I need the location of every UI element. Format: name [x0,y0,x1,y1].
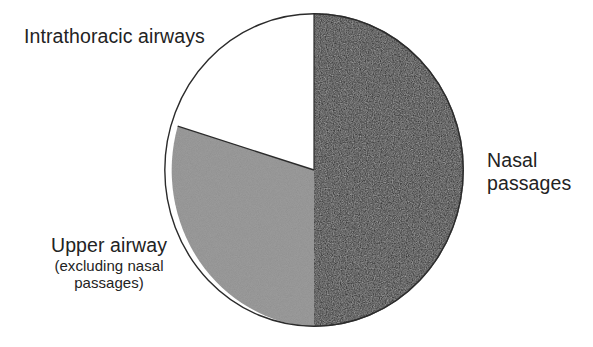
slice-label-nasal-line1: Nasal [487,149,571,172]
slice-label-upper-sub-line2: passages) [33,274,185,291]
slice-label-upper-sub-line1: (excluding nasal [33,257,185,274]
slice-label-intrathoracic-airways: Intrathoracic airways [24,25,205,48]
pie-slice-nasal-passages [314,13,464,327]
pie-chart-figure: Intrathoracic airways Nasal passages Upp… [0,0,593,347]
slice-label-nasal-passages: Nasal passages [487,149,571,194]
pie-svg [164,13,465,328]
pie-chart-graphic [164,13,465,328]
slice-label-intrathoracic-text: Intrathoracic airways [24,25,205,47]
slice-label-nasal-line2: passages [487,172,571,195]
slice-label-upper-airway: Upper airway (excluding nasal passages) [33,234,185,291]
slice-label-upper-main: Upper airway [33,234,185,257]
